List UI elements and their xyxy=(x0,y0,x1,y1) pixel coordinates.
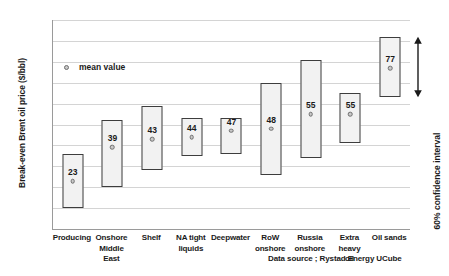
mean-value-marker-icon xyxy=(64,65,69,70)
legend-item-label: mean value xyxy=(79,62,125,72)
mean-value-label: 23 xyxy=(68,167,77,177)
mean-value-marker-icon xyxy=(190,135,195,140)
mean-value-marker-icon xyxy=(388,66,393,71)
bar-group[interactable]: 39 xyxy=(93,20,133,229)
bar-group[interactable]: 47 xyxy=(212,20,252,229)
bar-group[interactable]: 55 xyxy=(291,20,331,229)
mean-value-marker-icon xyxy=(348,112,353,117)
x-axis-tick-label: RoWonshore xyxy=(250,233,290,254)
x-axis-tick-label: Extra heavyoil xyxy=(330,233,370,265)
x-axis-tick-label: Deepwater xyxy=(211,233,251,244)
mean-value-marker-icon xyxy=(309,112,314,117)
x-axis-tick-label: OnshoreMiddle East xyxy=(92,233,132,265)
chart-legend: mean value xyxy=(64,62,125,72)
x-axis-tick-label: Producing xyxy=(52,233,92,244)
y-axis-title: Break-even Brent oil price ($/bbl) xyxy=(17,23,27,223)
mean-value-marker-icon xyxy=(71,179,76,184)
x-axis-tick-label: NA tightliquids xyxy=(171,233,211,254)
mean-value-label: 55 xyxy=(346,100,355,110)
mean-value-marker-icon xyxy=(150,137,155,142)
mean-value-label: 77 xyxy=(385,54,394,64)
bar-group[interactable]: 43 xyxy=(132,20,172,229)
mean-value-label: 39 xyxy=(108,133,117,143)
mean-value-label: 48 xyxy=(266,115,275,125)
bar-group[interactable]: 23 xyxy=(53,20,93,229)
confidence-interval-arrow-icon xyxy=(409,20,427,229)
bar-group[interactable]: 48 xyxy=(251,20,291,229)
confidence-interval-label: 60% confidence interval xyxy=(432,96,442,266)
range-bar[interactable] xyxy=(102,120,123,187)
bar-group[interactable]: 44 xyxy=(172,20,212,229)
mean-value-label: 44 xyxy=(187,123,196,133)
mean-value-label: 55 xyxy=(306,100,315,110)
x-axis-tick-label: Oil sands xyxy=(369,233,409,244)
mean-value-label: 47 xyxy=(227,117,236,127)
gridline xyxy=(53,229,410,230)
mean-value-label: 43 xyxy=(147,125,156,135)
mean-value-marker-icon xyxy=(269,126,274,131)
bar-group[interactable]: 77 xyxy=(370,20,410,229)
mean-value-marker-icon xyxy=(110,145,115,150)
bar-group[interactable]: 55 xyxy=(331,20,371,229)
breakeven-oil-price-chart: Break-even Brent oil price ($/bbl) 10090… xyxy=(0,0,449,276)
x-axis-tick-label: Russiaonshore xyxy=(290,233,330,254)
mean-value-marker-icon xyxy=(229,128,234,133)
plot-area: 1009080706050403020100233943444748555577 xyxy=(52,20,410,230)
x-axis-tick-label: Shelf xyxy=(131,233,171,244)
